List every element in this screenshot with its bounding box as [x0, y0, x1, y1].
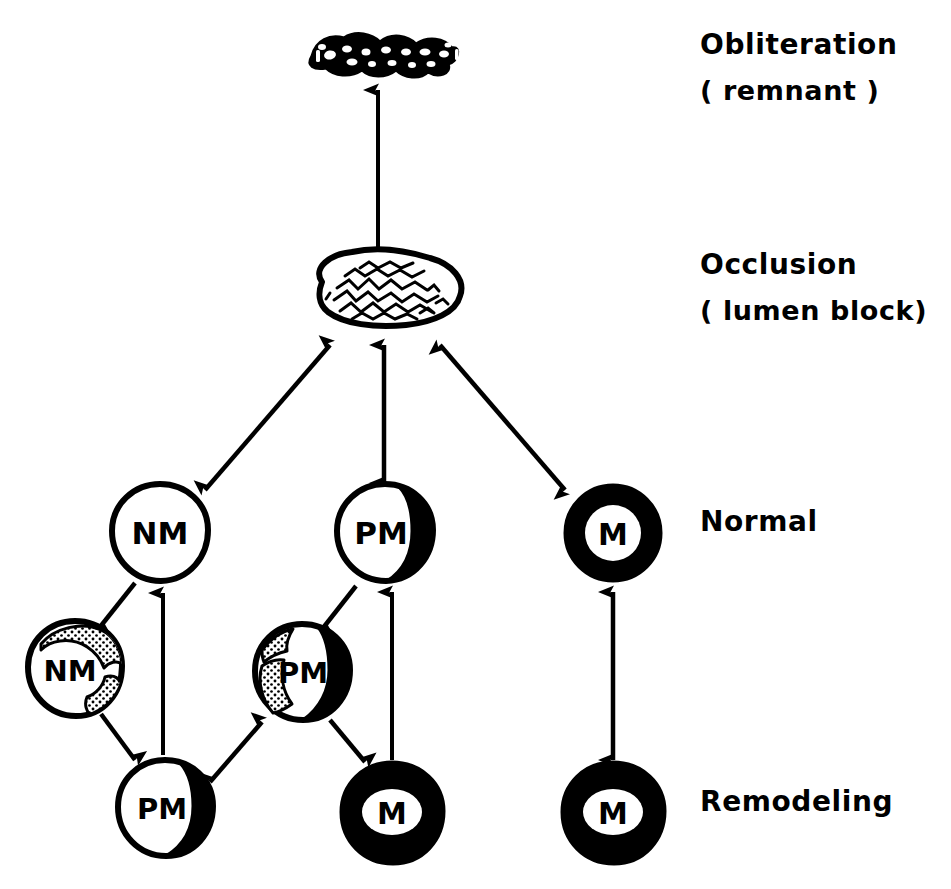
node-remnant	[310, 34, 459, 77]
arrow-m-to-occlusion	[440, 345, 565, 490]
node-remodel-m-right: M	[562, 762, 665, 864]
node-normal-pm: PM	[337, 484, 433, 581]
arrow-normal-nm-to-remodel-nm	[100, 583, 135, 627]
node-remodel-pm: PM	[118, 760, 213, 856]
node-label-normal-pm: PM	[354, 515, 408, 551]
node-label-remodel-pm-stippled: PM	[278, 656, 328, 690]
arrow-remodel-nm-to-remodel-pm	[101, 714, 135, 760]
diagram-graphics: NM PM M NM PM	[0, 0, 951, 889]
arrow-remodel-pm-stippled-to-remodel-m	[330, 720, 365, 762]
stage-label-occlusion: Occlusion	[700, 248, 857, 281]
node-occlusion-blob	[319, 249, 461, 326]
node-remodel-m-mid: M	[341, 762, 444, 864]
node-normal-m: M	[565, 485, 661, 581]
node-label-normal-nm: NM	[132, 515, 189, 551]
arrow-remodel-pm-to-remodel-pm-stippled	[210, 722, 262, 782]
stage-label-remodeling: Remodeling	[700, 785, 893, 818]
node-normal-nm: NM	[112, 484, 208, 581]
stage-label-obliteration: Obliteration	[700, 28, 897, 61]
arrow-nm-to-occlusion	[205, 345, 330, 490]
diagram-canvas: NM PM M NM PM	[0, 0, 951, 889]
node-label-normal-m: M	[598, 517, 628, 552]
node-remodel-pm-stippled: PM	[255, 624, 350, 720]
arrow-layer	[100, 90, 613, 782]
arrow-normal-pm-to-remodel-pm-stippled	[323, 586, 356, 628]
node-label-remodel-pm: PM	[137, 792, 187, 826]
node-label-remodel-m-right: M	[598, 796, 628, 831]
stage-label-obliteration-sub: ( remnant )	[700, 75, 879, 106]
stage-label-occlusion-sub: ( lumen block)	[700, 295, 927, 326]
node-label-remodel-nm-stippled: NM	[43, 654, 96, 688]
node-label-remodel-m-mid: M	[377, 796, 407, 831]
node-remodel-nm-stippled: NM	[28, 621, 122, 716]
stage-label-normal: Normal	[700, 505, 818, 538]
